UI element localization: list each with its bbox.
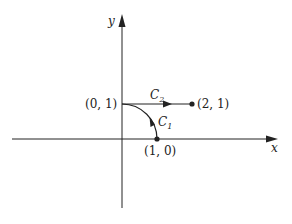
x-axis-label: x — [271, 141, 278, 155]
curve-label-c1-main: C — [158, 115, 167, 129]
point-label-1-0: (1, 0) — [144, 144, 176, 158]
point-label-2-1: (2, 1) — [197, 97, 229, 111]
point-label-0-1: (0, 1) — [85, 97, 117, 111]
curve-label-c2: C2 — [150, 88, 164, 104]
y-axis-label: y — [107, 14, 115, 28]
curve-label-c2-main: C — [150, 88, 159, 102]
c2-direction-arrow-icon — [163, 101, 172, 108]
curve-label-c1: C1 — [158, 115, 172, 131]
point-1-0 — [154, 136, 159, 141]
point-2-1 — [189, 101, 194, 106]
curve-label-c1-subscript: 1 — [167, 122, 172, 131]
coordinate-diagram: x y (0, 1) (2, 1) (1, 0) C2 C1 — [0, 0, 292, 224]
curve-label-c2-subscript: 2 — [158, 95, 164, 104]
y-axis-arrowhead-icon — [119, 14, 126, 27]
